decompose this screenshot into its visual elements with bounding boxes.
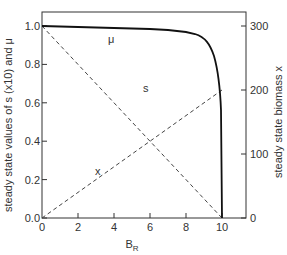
y-tick-label: 0.6 — [25, 97, 40, 109]
y-tick-label: 1.0 — [25, 20, 40, 32]
series-label-s: s — [143, 82, 149, 94]
plot-frame — [42, 12, 246, 218]
left-y-axis: 0.0 0.2 0.4 0.6 0.8 1.0 — [25, 20, 47, 224]
x-tick-label: 4 — [111, 221, 117, 233]
x-axis: 0 2 4 6 8 10 — [39, 213, 228, 233]
right-y-tick-label: 100 — [250, 148, 268, 160]
series-x-line — [42, 90, 222, 218]
x-tick-label: 6 — [147, 221, 153, 233]
y-tick-label: 0.8 — [25, 58, 40, 70]
series-label-mu: μ — [108, 33, 114, 45]
y-tick-label: 0.2 — [25, 174, 40, 186]
series-label-x: x — [95, 165, 101, 177]
right-y-tick-label: 300 — [250, 20, 268, 32]
x-tick-label: 0 — [39, 221, 45, 233]
series-s-line — [42, 26, 222, 218]
x-axis-title: BR — [125, 238, 138, 253]
y-tick-label: 0.0 — [25, 212, 40, 224]
right-y-axis: 0 100 200 300 — [241, 20, 268, 224]
y-axis-title: steady state values of s (x10) and μ — [2, 38, 14, 212]
x-tick-label: 10 — [216, 221, 228, 233]
x-axis-title-sub: R — [133, 244, 139, 253]
x-axis-title-main: B — [125, 238, 132, 250]
right-y-axis-title: steady state biomass x — [272, 66, 284, 178]
chart: 0.0 0.2 0.4 0.6 0.8 1.0 0 2 4 6 8 10 0 1… — [0, 0, 287, 255]
y-tick-label: 0.4 — [25, 135, 40, 147]
right-y-tick-label: 0 — [250, 212, 256, 224]
x-tick-label: 8 — [183, 221, 189, 233]
x-tick-label: 2 — [75, 221, 81, 233]
right-y-tick-label: 200 — [250, 84, 268, 96]
